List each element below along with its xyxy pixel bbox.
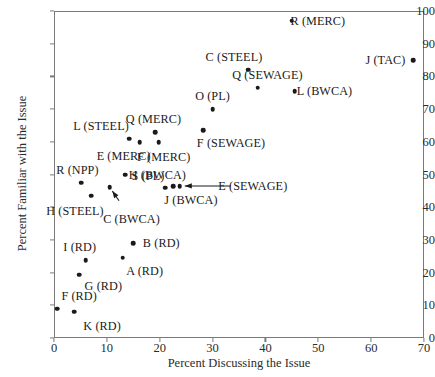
y-tick-mark [50, 272, 54, 273]
x-tick-mark [318, 338, 319, 342]
y-tick-mark [50, 174, 54, 175]
data-point [120, 256, 125, 261]
data-point-label: L (STEEL) [73, 118, 129, 133]
x-tick-mark [371, 338, 372, 342]
data-point [171, 184, 176, 189]
data-point-label: J (BWCA) [164, 192, 217, 207]
x-tick-label: 40 [259, 341, 272, 356]
y-tick-label: 60 [391, 134, 435, 149]
data-point [153, 130, 158, 135]
y-tick-mark [50, 141, 54, 142]
data-point [255, 86, 260, 91]
x-tick-mark [423, 338, 424, 342]
data-point [123, 172, 128, 177]
x-tick-mark [265, 338, 266, 342]
data-point-label: R (MERC) [291, 13, 346, 28]
y-tick-label: 50 [391, 167, 435, 182]
data-point [127, 136, 132, 141]
data-point-label: F (SEWAGE) [197, 136, 265, 151]
y-tick-label: 30 [391, 232, 435, 247]
y-tick-label: 80 [391, 69, 435, 84]
data-point [163, 185, 168, 190]
data-point-label: S (PL) [132, 168, 165, 183]
data-point-label: C (BWCA) [103, 211, 160, 226]
y-tick-label: 70 [391, 102, 435, 117]
data-point [55, 306, 60, 311]
data-point-label: K (RD) [83, 318, 121, 333]
data-point-label: C (STEEL) [206, 49, 263, 64]
y-tick-mark [50, 76, 54, 77]
x-tick-label: 20 [153, 341, 166, 356]
data-point-label: F (RD) [61, 288, 96, 303]
x-tick-label: 70 [418, 341, 431, 356]
data-point-label: O (PL) [195, 89, 230, 104]
data-point [411, 58, 416, 63]
data-point [79, 180, 84, 185]
x-tick-label: 30 [206, 341, 219, 356]
data-point [77, 273, 82, 278]
y-tick-label: 100 [391, 4, 435, 19]
data-point-label: Q (MERC) [126, 111, 181, 126]
y-tick-label: 90 [391, 36, 435, 51]
y-tick-mark [50, 10, 54, 11]
data-point-label: H (STEEL) [46, 203, 103, 218]
y-tick-label: 10 [391, 298, 435, 313]
data-point [83, 258, 88, 263]
x-tick-mark [53, 338, 54, 342]
y-axis-title: Percent Familiar with the Issue [15, 74, 30, 274]
data-point [137, 140, 142, 145]
x-axis-title: Percent Discussing the Issue [54, 356, 424, 371]
data-point [178, 184, 183, 189]
data-point-label: R (NPP) [56, 162, 98, 177]
data-point-label: Q (SEWAGE) [232, 67, 302, 82]
data-point [89, 193, 94, 198]
x-tick-label: 60 [365, 341, 378, 356]
y-tick-mark [50, 239, 54, 240]
y-tick-mark [50, 109, 54, 110]
data-point [72, 310, 77, 315]
data-point [156, 140, 161, 145]
x-tick-label: 50 [312, 341, 325, 356]
x-tick-mark [212, 338, 213, 342]
data-point [201, 128, 206, 133]
data-point [131, 241, 136, 246]
data-point-label: I (RD) [63, 240, 96, 255]
data-point [107, 185, 112, 190]
data-point-label: B (RD) [143, 236, 180, 251]
y-tick-label: 20 [391, 265, 435, 280]
x-tick-mark [106, 338, 107, 342]
data-point-label: J (TAC) [365, 53, 405, 68]
data-point-label: A (RD) [126, 263, 163, 278]
data-point-label: F (MERC) [137, 150, 190, 165]
scatter-plot-figure: 0102030405060708090100010203040506070 R … [0, 0, 435, 377]
y-tick-label: 40 [391, 200, 435, 215]
data-point-label: E (SEWAGE) [218, 178, 287, 193]
data-point-label: L (BWCA) [297, 84, 353, 99]
y-tick-mark [50, 43, 54, 44]
data-point [210, 107, 215, 112]
x-tick-mark [159, 338, 160, 342]
x-tick-label: 0 [51, 341, 57, 356]
y-tick-mark [50, 305, 54, 306]
x-tick-label: 10 [101, 341, 114, 356]
